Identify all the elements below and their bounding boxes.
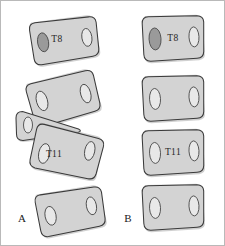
panel-b: T8 T11 B [124, 13, 205, 233]
vertebra-a-t8-level-label: T8 [51, 34, 62, 44]
panel-a-label: A [18, 212, 26, 224]
vertebra-a-t11 [28, 122, 105, 183]
vertebra-a-lower [34, 182, 108, 239]
vertebra-a-t11-level-label: T11 [46, 149, 62, 159]
vertebra-b-t8-level-label: T8 [167, 33, 178, 43]
vertebra-b-second [142, 73, 206, 124]
vertebra-b-fourth [142, 182, 206, 233]
vertebral-comparison-figure: T8 T11 [0, 0, 225, 246]
vertebra-a-t8 [28, 12, 101, 67]
vertebra-b-t11-level-label: T11 [165, 147, 181, 157]
figure-canvas: T8 T11 [0, 0, 225, 246]
vertebra-a-wedge-left-foramen [24, 117, 33, 133]
panel-a: T8 T11 [16, 12, 108, 239]
panel-b-label: B [124, 212, 131, 224]
